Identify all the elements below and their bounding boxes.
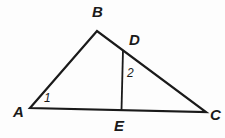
vertex-label-e: E: [114, 117, 125, 134]
vertex-label-c: C: [210, 106, 222, 123]
geometry-diagram: B A C D E 1 2: [0, 0, 225, 138]
segment-de: [122, 50, 124, 110]
angle-label-1: 1: [44, 91, 51, 105]
triangle-figure-svg: B A C D E 1 2: [0, 0, 225, 138]
triangle-abc-outline: [30, 31, 206, 112]
vertex-label-a: A: [12, 103, 24, 120]
vertex-label-d: D: [129, 31, 140, 48]
angle-label-2: 2: [126, 66, 134, 80]
vertex-label-b: B: [92, 3, 103, 20]
